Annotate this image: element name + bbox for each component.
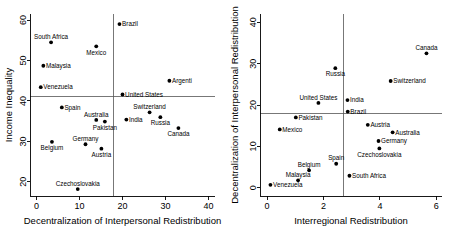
data-point: Malaysia bbox=[41, 62, 71, 70]
data-point: Brazil bbox=[346, 108, 366, 115]
point-marker bbox=[148, 110, 152, 114]
point-marker bbox=[60, 106, 64, 110]
data-point: Venezuela bbox=[39, 83, 73, 90]
data-point: United States bbox=[121, 91, 163, 98]
point-marker bbox=[94, 118, 98, 122]
point-marker bbox=[118, 22, 122, 26]
data-point: Belgium bbox=[41, 140, 64, 152]
point-label: Switzerland bbox=[393, 77, 426, 84]
data-point: Canada bbox=[415, 44, 438, 55]
x-axis-title: Interregional Redistribution bbox=[294, 215, 408, 226]
point-marker bbox=[346, 110, 350, 114]
point-label: Russia bbox=[151, 119, 171, 126]
data-point: Argenti bbox=[167, 77, 191, 85]
point-label: Canada bbox=[415, 44, 438, 51]
data-point: India bbox=[124, 116, 143, 123]
point-label: Mexico bbox=[86, 49, 106, 56]
x-tick-label: 4 bbox=[377, 201, 382, 211]
point-marker bbox=[391, 130, 395, 134]
point-label: Malaysia bbox=[286, 171, 311, 179]
point-marker bbox=[84, 142, 88, 146]
point-label: United States bbox=[300, 94, 338, 101]
point-label: Pakistan bbox=[298, 114, 323, 121]
point-marker bbox=[269, 183, 273, 187]
point-marker bbox=[377, 139, 381, 143]
y-tick-label: 50 bbox=[18, 56, 28, 66]
point-marker bbox=[294, 116, 298, 120]
point-label: Czechoslovakia bbox=[56, 180, 101, 187]
point-marker bbox=[366, 123, 370, 127]
left-scatter-plot: 0102030402030405060Decentralization of I… bbox=[0, 0, 226, 238]
point-marker bbox=[49, 40, 53, 44]
point-label: Brazil bbox=[350, 108, 366, 115]
y-tick-label: 20 bbox=[18, 177, 28, 187]
point-marker bbox=[348, 174, 352, 178]
y-tick-label: 20 bbox=[248, 100, 258, 110]
data-point: Germany bbox=[377, 137, 408, 145]
point-marker bbox=[425, 51, 429, 55]
x-tick-label: 40 bbox=[204, 201, 214, 211]
point-label: Austria bbox=[370, 121, 390, 128]
point-label: Brazil bbox=[122, 20, 138, 27]
data-point: Canada bbox=[167, 126, 190, 137]
y-tick-label: 30 bbox=[248, 59, 258, 69]
data-point: Czechoslovakia bbox=[357, 147, 402, 158]
data-point: Germany bbox=[73, 135, 100, 146]
y-tick-label: 10 bbox=[248, 141, 258, 151]
point-label: Germany bbox=[73, 135, 100, 143]
data-point: Switzerland bbox=[389, 77, 427, 84]
data-point: Mexico bbox=[278, 126, 303, 133]
point-label: South Africa bbox=[34, 33, 68, 40]
y-tick-label: 60 bbox=[18, 15, 28, 25]
data-point: Venezuela bbox=[269, 181, 303, 188]
point-label: Spain bbox=[64, 104, 81, 112]
x-tick-label: 0 bbox=[34, 201, 39, 211]
x-tick-label: 10 bbox=[74, 201, 84, 211]
data-point: Czechoslovakia bbox=[56, 180, 101, 191]
point-marker bbox=[76, 187, 80, 191]
y-tick-label: 30 bbox=[18, 136, 28, 146]
point-label: India bbox=[350, 96, 364, 103]
data-point: United States bbox=[300, 94, 338, 105]
point-marker bbox=[39, 85, 43, 89]
point-label: Mexico bbox=[282, 126, 302, 133]
point-marker bbox=[389, 79, 393, 83]
x-tick-label: 2 bbox=[321, 201, 326, 211]
point-label: Czechoslovakia bbox=[357, 151, 402, 158]
point-marker bbox=[41, 64, 45, 68]
point-label: United States bbox=[125, 91, 163, 98]
point-marker bbox=[278, 128, 282, 132]
point-label: South Africa bbox=[352, 172, 386, 179]
y-tick-label: 0 bbox=[248, 185, 258, 190]
point-label: Australia bbox=[84, 111, 109, 118]
point-label: Australia bbox=[395, 129, 420, 136]
x-tick-label: 20 bbox=[117, 201, 127, 211]
data-point: Russia bbox=[326, 66, 346, 77]
point-label: Venezuela bbox=[273, 181, 303, 188]
point-label: Belgium bbox=[298, 161, 321, 169]
point-marker bbox=[124, 118, 128, 122]
right-scatter-plot: 0246010203040Interregional Redistributio… bbox=[226, 0, 452, 238]
data-point: Australia bbox=[391, 129, 420, 136]
point-label: Canada bbox=[167, 130, 190, 137]
data-point: Brazil bbox=[118, 20, 138, 27]
data-point: Austria bbox=[92, 147, 112, 158]
x-tick-label: 30 bbox=[161, 201, 171, 211]
scatter-plot-figure: 0102030402030405060Decentralization of I… bbox=[0, 0, 452, 238]
data-point: Pakistan bbox=[294, 114, 323, 121]
point-marker bbox=[167, 79, 171, 83]
point-label: Germany bbox=[381, 137, 408, 145]
point-label: Pakistan bbox=[93, 124, 118, 131]
left-panel: 0102030402030405060Decentralization of I… bbox=[0, 0, 226, 238]
data-point: India bbox=[346, 96, 365, 103]
point-marker bbox=[121, 93, 125, 97]
point-marker bbox=[317, 101, 321, 105]
point-marker bbox=[334, 162, 338, 166]
data-point: Russia bbox=[151, 115, 171, 126]
x-axis-title: Decentralization of Interpersonal Redist… bbox=[24, 215, 222, 226]
point-marker bbox=[346, 98, 350, 102]
y-axis-title: Income Inequality bbox=[3, 68, 14, 143]
point-label: India bbox=[129, 116, 143, 123]
y-tick-label: 40 bbox=[248, 17, 258, 27]
point-label: Spain bbox=[328, 154, 345, 162]
